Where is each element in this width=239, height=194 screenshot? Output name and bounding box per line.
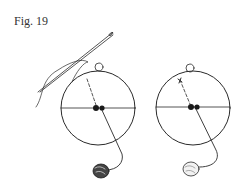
right-dashed-line: [180, 80, 190, 104]
needle-icon: [38, 32, 113, 92]
right-cross-mark: [178, 78, 182, 83]
left-dot-1: [93, 105, 99, 111]
right-dot-1: [188, 104, 194, 110]
right-dot-2: [194, 104, 199, 109]
right-diagram: [156, 64, 230, 176]
left-dashed-line: [87, 79, 96, 105]
left-diagram: [36, 32, 135, 178]
yarn-ball-light-icon: [183, 162, 199, 176]
left-dot-2: [99, 105, 104, 110]
right-solid-line: [195, 107, 217, 167]
figure-illustration: [0, 0, 239, 194]
left-top-small-circle: [95, 63, 103, 71]
yarn-ball-dark-icon: [93, 164, 109, 178]
left-solid-line: [101, 108, 122, 170]
